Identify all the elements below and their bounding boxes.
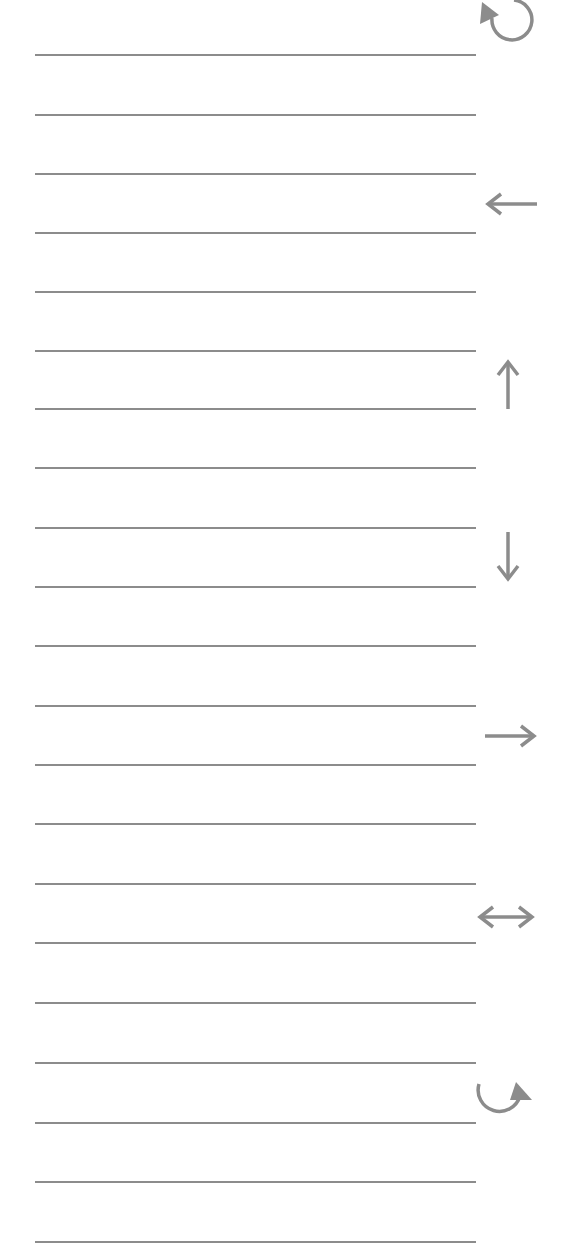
ruled-line bbox=[35, 173, 476, 175]
ruled-line bbox=[35, 467, 476, 469]
ruled-line bbox=[35, 823, 476, 825]
arrow-left-right-icon[interactable] bbox=[475, 903, 537, 931]
arrow-up-icon[interactable] bbox=[494, 357, 522, 411]
ruled-line bbox=[35, 1122, 476, 1124]
arrow-down-icon[interactable] bbox=[494, 530, 522, 584]
ruled-line bbox=[35, 883, 476, 885]
ruled-line bbox=[35, 527, 476, 529]
ruled-line bbox=[35, 645, 476, 647]
ruled-line bbox=[35, 1241, 476, 1243]
rotate-counterclockwise-icon[interactable] bbox=[474, 0, 534, 50]
ruled-line bbox=[35, 764, 476, 766]
arrow-left-icon[interactable] bbox=[483, 190, 539, 218]
ruled-line bbox=[35, 291, 476, 293]
ruled-line bbox=[35, 54, 476, 56]
ruled-line bbox=[35, 350, 476, 352]
ruled-line bbox=[35, 586, 476, 588]
ruled-line bbox=[35, 232, 476, 234]
ruled-line bbox=[35, 1002, 476, 1004]
ruled-line bbox=[35, 408, 476, 410]
rotate-clockwise-icon[interactable] bbox=[474, 1078, 536, 1120]
arrow-right-icon[interactable] bbox=[483, 722, 539, 750]
ruled-line bbox=[35, 114, 476, 116]
ruled-line bbox=[35, 1181, 476, 1183]
ruled-line bbox=[35, 705, 476, 707]
ruled-line bbox=[35, 942, 476, 944]
ruled-line bbox=[35, 1062, 476, 1064]
